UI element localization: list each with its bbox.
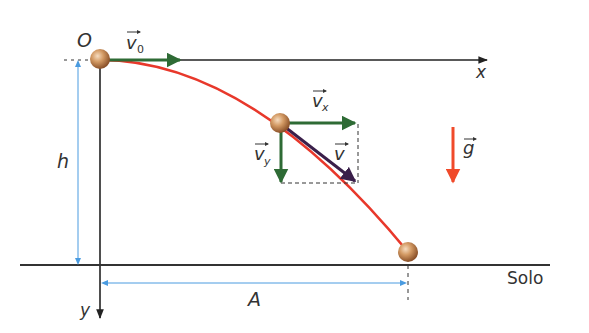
label-y-axis: y	[79, 300, 91, 320]
label-ground: Solo	[507, 268, 543, 288]
diagram-svg: O v 0 x y h A Solo v x v y v g	[0, 0, 589, 333]
label-v: v	[334, 142, 349, 164]
svg-text:x: x	[321, 101, 329, 114]
ball-mid	[270, 113, 290, 133]
label-g: g	[463, 137, 477, 158]
label-x-axis: x	[475, 62, 487, 82]
svg-text:y: y	[263, 155, 271, 168]
label-range: A	[246, 288, 261, 310]
projectile-diagram: O v 0 x y h A Solo v x v y v g	[0, 0, 589, 333]
label-vx: v x	[312, 89, 329, 114]
svg-text:g: g	[463, 137, 474, 158]
ball-landing	[398, 242, 418, 262]
ball-origin	[90, 49, 110, 69]
svg-text:0: 0	[137, 43, 144, 56]
label-height: h	[57, 150, 69, 172]
label-v0: v 0	[126, 30, 144, 56]
svg-text:v: v	[334, 143, 345, 164]
label-vy: v y	[254, 142, 271, 168]
label-origin: O	[77, 29, 92, 51]
svg-text:v: v	[126, 32, 137, 53]
